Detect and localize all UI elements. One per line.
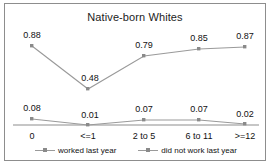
chart-legend: worked last year did not work last year xyxy=(5,146,267,155)
legend-marker-icon xyxy=(35,147,55,154)
series-did-not-work-last-year-marker xyxy=(142,118,145,121)
data-label: 0.07 xyxy=(190,104,208,114)
series-worked-last-year-marker xyxy=(86,87,89,90)
series-worked-last-year-marker xyxy=(142,54,145,57)
data-label: 0.88 xyxy=(23,30,41,40)
series-did-not-work-last-year-marker xyxy=(197,118,200,121)
data-label: 0.01 xyxy=(81,110,99,120)
data-label: 0.87 xyxy=(236,31,254,41)
legend-label: did not work last year xyxy=(161,146,237,155)
data-label: 0.08 xyxy=(23,103,41,113)
x-axis-tick-label: 6 to 11 xyxy=(186,131,213,141)
legend-marker-icon xyxy=(138,147,158,154)
data-label: 0.07 xyxy=(135,104,153,114)
data-label: 0.79 xyxy=(135,40,153,50)
series-worked-last-year-line xyxy=(32,46,245,89)
plot-area: 0.88 0.48 0.79 0.85 0.87 0.08 0.01 0.07 … xyxy=(5,4,267,162)
series-did-not-work-last-year-marker xyxy=(30,117,33,120)
chart-frame: Native-born Whites 0.88 0.48 0.79 0.85 0… xyxy=(4,3,266,161)
legend-item-worked-last-year: worked last year xyxy=(35,146,116,155)
series-did-not-work-last-year-line xyxy=(32,119,245,125)
series-did-not-work-last-year-marker xyxy=(243,122,246,125)
data-label: 0.48 xyxy=(81,73,99,83)
x-axis-tick-label: 0 xyxy=(29,131,34,141)
x-axis-tick-label: <=1 xyxy=(80,131,96,141)
series-worked-last-year-marker xyxy=(197,47,200,50)
series-worked-last-year-marker xyxy=(243,45,246,48)
legend-item-did-not-work-last-year: did not work last year xyxy=(138,146,237,155)
series-worked-last-year-marker xyxy=(30,44,33,47)
data-label: 0.85 xyxy=(190,33,208,43)
series-did-not-work-last-year-marker xyxy=(86,123,89,126)
x-axis-tick-label: >=12 xyxy=(235,131,256,141)
data-label: 0.02 xyxy=(236,109,254,119)
legend-label: worked last year xyxy=(58,146,116,155)
x-axis-tick-label: 2 to 5 xyxy=(133,131,156,141)
